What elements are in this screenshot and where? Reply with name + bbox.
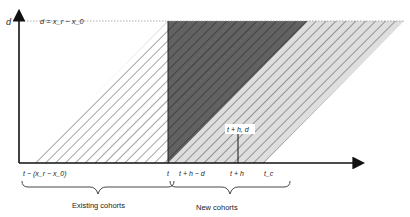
new-cohorts-brace: [170, 181, 290, 194]
x-tick-t: t: [167, 170, 170, 177]
new-cohorts-label: New cohorts: [196, 203, 238, 212]
existing-cohorts-brace: [22, 181, 174, 194]
existing-cohorts-region: [28, 21, 168, 163]
top-line-label: d = x_r − x_0: [40, 17, 85, 26]
x-tick-tc: t_c: [264, 170, 274, 177]
x-tick-th: t + h: [230, 170, 244, 177]
x-tick-thd: t + h − d: [179, 170, 206, 177]
point-label: t + h, d: [227, 126, 250, 133]
lexis-diagram: d d = x_r − x_0 t − (x_r − x_0) t t + h …: [0, 0, 410, 217]
y-axis-label: d: [6, 17, 12, 27]
existing-cohorts-label: Existing cohorts: [72, 201, 125, 210]
x-tick-start: t − (x_r − x_0): [23, 170, 67, 178]
